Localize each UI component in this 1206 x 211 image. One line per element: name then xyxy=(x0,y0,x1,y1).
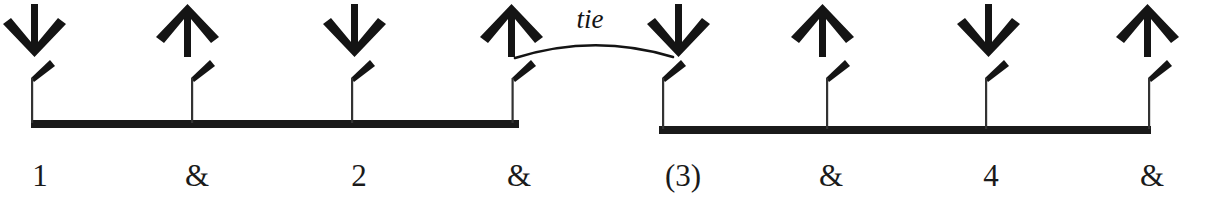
beat-2-up-stroke xyxy=(156,4,219,123)
down-arrow-icon xyxy=(957,4,1020,57)
down-arrow-icon xyxy=(647,4,710,57)
eighth-flag-icon xyxy=(351,60,375,82)
beam-group-1 xyxy=(31,120,519,128)
beat-4-up-stroke xyxy=(480,4,543,123)
count-label-beat-7: 4 xyxy=(983,160,999,191)
count-label-beat-5: (3) xyxy=(665,160,701,191)
beam-bar xyxy=(31,120,519,128)
down-arrow-icon xyxy=(3,4,66,57)
eighth-flag-icon xyxy=(31,60,55,82)
note-stem xyxy=(351,78,353,123)
up-arrow-icon xyxy=(480,4,543,57)
note-stem xyxy=(662,78,664,129)
eighth-flag-icon xyxy=(662,60,686,82)
count-label-beat-3: 2 xyxy=(351,160,367,191)
tie-arc xyxy=(515,45,673,58)
up-arrow-icon xyxy=(791,4,854,57)
beat-1-down-stroke xyxy=(3,4,66,123)
beam-group-2 xyxy=(659,126,1151,134)
beam-bar xyxy=(659,126,1151,134)
beat-5-down-stroke xyxy=(647,4,710,129)
note-stem xyxy=(1148,78,1150,129)
tie-label: tie xyxy=(577,6,604,33)
count-label-beat-4: & xyxy=(507,160,531,191)
count-label-beat-2: & xyxy=(185,160,209,191)
eighth-flag-icon xyxy=(985,60,1009,82)
rhythm-notation-diagram: tie 1 & 2 & (3) & 4 & xyxy=(0,0,1206,211)
note-stem xyxy=(985,78,987,129)
eighth-flag-icon xyxy=(191,60,215,82)
eighth-flag-icon xyxy=(512,60,536,82)
note-stem xyxy=(826,78,828,129)
count-label-beat-6: & xyxy=(819,160,843,191)
note-stem xyxy=(31,78,33,123)
count-label-beat-8: & xyxy=(1140,160,1164,191)
up-arrow-icon xyxy=(1116,4,1179,57)
beat-8-up-stroke xyxy=(1116,4,1179,129)
note-stem xyxy=(191,78,193,123)
beat-6-up-stroke xyxy=(791,4,854,129)
eighth-flag-icon xyxy=(1148,60,1172,82)
beat-7-down-stroke xyxy=(957,4,1020,129)
count-label-beat-1: 1 xyxy=(32,160,48,191)
eighth-flag-icon xyxy=(826,60,850,82)
down-arrow-icon xyxy=(323,4,386,57)
note-stem xyxy=(512,78,514,123)
beat-3-down-stroke xyxy=(323,4,386,123)
up-arrow-icon xyxy=(156,4,219,57)
